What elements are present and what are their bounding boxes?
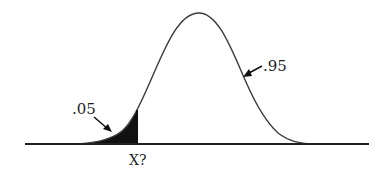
left-tail-label: .05 xyxy=(72,100,96,118)
cutoff-label: X? xyxy=(129,152,146,168)
arrow-left-tail-icon xyxy=(94,117,112,132)
bell-curve xyxy=(25,13,369,144)
arrow-right-area-icon xyxy=(243,66,262,77)
right-area-label: .95 xyxy=(263,57,287,75)
normal-distribution-diagram: .05 .95 X? xyxy=(0,0,387,177)
